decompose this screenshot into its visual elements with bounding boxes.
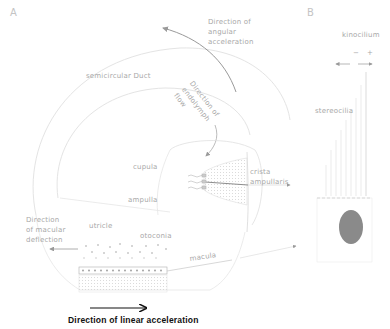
macula (79, 246, 296, 292)
hair-cell (317, 64, 372, 262)
otoconia (83, 243, 167, 259)
label-angular-acceleration: Direction of angular acceleration (208, 17, 254, 47)
label-cupula: cupula (133, 162, 158, 172)
label-otoconia: otoconia (140, 231, 172, 241)
vestibular-diagram (0, 0, 390, 329)
label-kinocilium: kinocilium (342, 30, 380, 40)
nucleus (339, 210, 363, 244)
panel-label-a: A (10, 8, 17, 18)
label-semicircular-duct: semicircular Duct (86, 71, 151, 81)
label-crista-ampullaris: crista ampullaris (250, 167, 289, 187)
label-stereocilia: stereocilia (315, 106, 353, 116)
label-ampulla: ampulla (128, 195, 158, 205)
crista-ampullaris (204, 158, 247, 205)
label-minus: − (353, 48, 359, 58)
hair-cells-ampulla (188, 174, 206, 189)
label-utricle: utricle (89, 221, 113, 231)
semicircular-duct-outline (33, 48, 290, 215)
panel-label-b: B (307, 8, 314, 18)
label-plus: + (367, 48, 373, 58)
label-linear-acceleration: Direction of linear acceleration (68, 315, 199, 325)
label-macular-deflection: Direction of macular deflection (26, 215, 65, 245)
